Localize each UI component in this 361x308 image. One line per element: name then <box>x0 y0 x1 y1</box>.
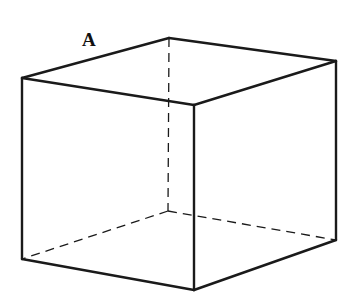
cube-edge <box>194 240 336 290</box>
hidden-edges <box>22 38 336 259</box>
cube-diagram: A <box>0 0 361 308</box>
cube-edge <box>194 61 336 105</box>
visible-edges <box>22 38 336 290</box>
hidden-cube-edge <box>168 38 169 211</box>
hidden-cube-edge <box>22 211 168 259</box>
cube-edge <box>169 38 336 61</box>
cube-edge <box>22 259 194 290</box>
vertex-label-a: A <box>82 29 96 50</box>
